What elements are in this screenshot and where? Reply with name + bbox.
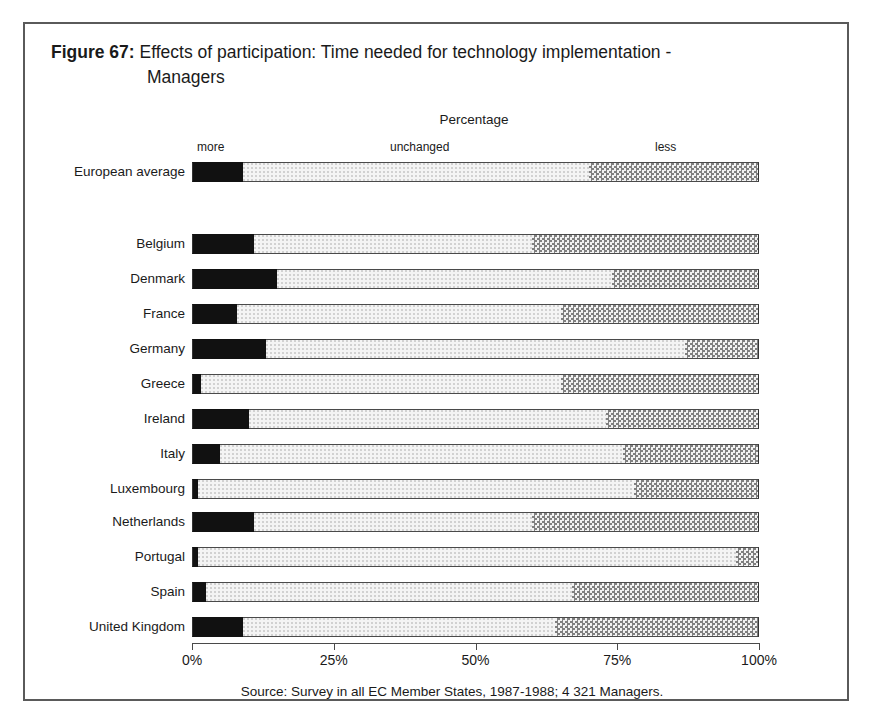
stacked-bar bbox=[192, 444, 759, 464]
x-axis-tick-label: 50% bbox=[441, 652, 511, 668]
x-axis-tick-label: 100% bbox=[724, 652, 794, 668]
stacked-bar bbox=[192, 547, 759, 567]
bar-segment-unchanged bbox=[254, 234, 532, 254]
bar-segment-unchanged bbox=[266, 339, 686, 359]
chart-row: Luxembourg bbox=[25, 479, 847, 499]
category-label: Germany bbox=[25, 341, 185, 356]
stacked-bar bbox=[192, 374, 759, 394]
chart-row: United Kingdom bbox=[25, 617, 847, 637]
bar-segment-more bbox=[192, 269, 277, 289]
bar-segment-more bbox=[192, 374, 201, 394]
stacked-bar bbox=[192, 234, 759, 254]
stacked-bar bbox=[192, 617, 759, 637]
category-label: Italy bbox=[25, 446, 185, 461]
bar-segment-less bbox=[532, 234, 759, 254]
bar-segment-less bbox=[572, 582, 759, 602]
bar-segment-unchanged bbox=[198, 547, 737, 567]
x-axis-tick bbox=[759, 643, 760, 650]
bar-segment-less bbox=[634, 479, 759, 499]
bar-segment-more bbox=[192, 444, 220, 464]
bar-segment-unchanged bbox=[243, 162, 589, 182]
chart-row: Germany bbox=[25, 339, 847, 359]
stacked-bar bbox=[192, 512, 759, 532]
stacked-bar bbox=[192, 339, 759, 359]
stacked-bar bbox=[192, 162, 759, 182]
category-label: Denmark bbox=[25, 271, 185, 286]
chart-row: Denmark bbox=[25, 269, 847, 289]
chart-row: European average bbox=[25, 162, 847, 182]
bar-segment-unchanged bbox=[249, 409, 606, 429]
bar-segment-less bbox=[561, 374, 759, 394]
bar-segment-more bbox=[192, 162, 243, 182]
bar-segment-less bbox=[555, 617, 759, 637]
category-label: Belgium bbox=[25, 236, 185, 251]
category-label: France bbox=[25, 306, 185, 321]
bar-segment-unchanged bbox=[206, 582, 572, 602]
chart-row: Netherlands bbox=[25, 512, 847, 532]
category-label: Luxembourg bbox=[25, 481, 185, 496]
category-label: Greece bbox=[25, 376, 185, 391]
category-label: Portugal bbox=[25, 549, 185, 564]
x-axis-tick-label: 0% bbox=[157, 652, 227, 668]
category-label: Netherlands bbox=[25, 514, 185, 529]
bar-segment-more bbox=[192, 617, 243, 637]
bar-segment-less bbox=[561, 304, 759, 324]
chart-row: Portugal bbox=[25, 547, 847, 567]
figure-frame: Figure 67: Effects of participation: Tim… bbox=[23, 22, 849, 701]
bar-segment-less bbox=[623, 444, 759, 464]
x-axis-tick bbox=[476, 643, 477, 650]
bar-segment-more bbox=[192, 512, 254, 532]
bar-segment-more bbox=[192, 582, 206, 602]
x-axis-tick bbox=[334, 643, 335, 650]
category-label: Ireland bbox=[25, 411, 185, 426]
bar-segment-more bbox=[192, 234, 254, 254]
bar-segment-less bbox=[532, 512, 759, 532]
stacked-bar bbox=[192, 409, 759, 429]
bar-segment-unchanged bbox=[243, 617, 555, 637]
stacked-bar bbox=[192, 269, 759, 289]
x-axis-tick-label: 25% bbox=[299, 652, 369, 668]
bar-segment-unchanged bbox=[277, 269, 612, 289]
stacked-bar bbox=[192, 304, 759, 324]
x-axis-tick-label: 75% bbox=[582, 652, 652, 668]
bar-segment-unchanged bbox=[254, 512, 532, 532]
x-axis-tick bbox=[192, 643, 193, 650]
chart-row: Ireland bbox=[25, 409, 847, 429]
chart-row: Spain bbox=[25, 582, 847, 602]
bar-segment-more bbox=[192, 409, 249, 429]
chart-row: Belgium bbox=[25, 234, 847, 254]
bar-segment-less bbox=[736, 547, 759, 567]
bar-segment-more bbox=[192, 304, 237, 324]
category-label: Spain bbox=[25, 584, 185, 599]
stacked-bar bbox=[192, 582, 759, 602]
bar-segment-less bbox=[685, 339, 759, 359]
bar-segment-less bbox=[606, 409, 759, 429]
source-note-text: Source: Survey in all EC Member States, … bbox=[241, 684, 663, 699]
chart-row: France bbox=[25, 304, 847, 324]
bar-segment-unchanged bbox=[220, 444, 623, 464]
chart-plot-area: European averageBelgiumDenmarkFranceGerm… bbox=[25, 24, 847, 699]
bar-segment-unchanged bbox=[237, 304, 560, 324]
bar-segment-unchanged bbox=[198, 479, 635, 499]
bar-segment-less bbox=[589, 162, 759, 182]
x-axis-tick bbox=[617, 643, 618, 650]
bar-segment-less bbox=[612, 269, 759, 289]
stacked-bar bbox=[192, 479, 759, 499]
chart-row: Greece bbox=[25, 374, 847, 394]
bar-segment-more bbox=[192, 339, 266, 359]
chart-row: Italy bbox=[25, 444, 847, 464]
bar-segment-unchanged bbox=[201, 374, 561, 394]
category-label: United Kingdom bbox=[25, 619, 185, 634]
source-note: Source: Survey in all EC Member States, … bbox=[25, 684, 847, 699]
category-label: European average bbox=[25, 164, 185, 179]
